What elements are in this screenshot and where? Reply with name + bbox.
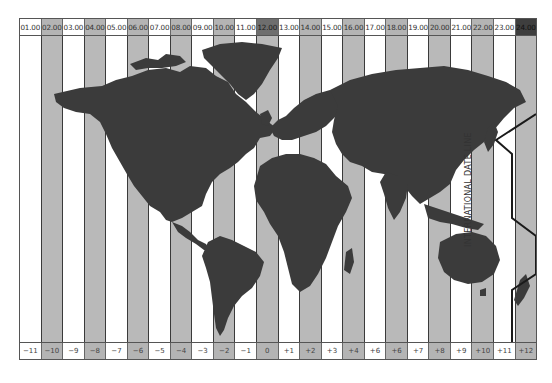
hour-header-cell: 01.00 <box>20 19 42 35</box>
utc-offset-cell: −11 <box>20 343 42 359</box>
hour-header-cell: 20.00 <box>429 19 451 35</box>
time-zone-band <box>235 19 257 359</box>
time-zone-band <box>149 19 171 359</box>
utc-offset-cell: −10 <box>42 343 64 359</box>
utc-offset-cell: +3 <box>322 343 344 359</box>
time-zone-band <box>192 19 214 359</box>
date-line-label: INTERNATIONAL DATE LINE <box>464 130 473 250</box>
time-zone-band <box>171 19 193 359</box>
utc-offset-cell: +1 <box>279 343 301 359</box>
utc-offset-cell: +2 <box>300 343 322 359</box>
utc-offset-cell: −1 <box>235 343 257 359</box>
time-zone-band <box>257 19 279 359</box>
utc-offset-cell: +7 <box>408 343 430 359</box>
utc-offset-cell: +6 <box>365 343 387 359</box>
hour-header-cell: 07.00 <box>149 19 171 35</box>
time-zone-band <box>20 19 42 359</box>
hour-header-cell: 14.00 <box>300 19 322 35</box>
time-zone-band <box>322 19 344 359</box>
utc-offset-cell: +4 <box>343 343 365 359</box>
time-zone-band <box>85 19 107 359</box>
hour-header-cell: 16.00 <box>343 19 365 35</box>
time-zone-band <box>429 19 451 359</box>
utc-offset-cell: −2 <box>214 343 236 359</box>
hour-header-cell: 23.00 <box>494 19 516 35</box>
utc-offset-cell: 0 <box>257 343 279 359</box>
hour-header-cell: 08.00 <box>171 19 193 35</box>
hour-header-cell: 13.00 <box>279 19 301 35</box>
hour-header-cell: 10.00 <box>214 19 236 35</box>
utc-offset-cell: +12 <box>516 343 537 359</box>
hour-header-row: 01.0002.0003.0004.0005.0006.0007.0008.00… <box>20 19 536 36</box>
hour-header-cell: 09.00 <box>192 19 214 35</box>
hour-header-cell: 24.00 <box>516 19 537 35</box>
utc-offset-cell: −9 <box>63 343 85 359</box>
hour-header-cell: 11.00 <box>235 19 257 35</box>
utc-offset-cell: +11 <box>494 343 516 359</box>
time-zone-band <box>494 19 516 359</box>
utc-offset-cell: −3 <box>192 343 214 359</box>
hour-header-cell: 19.00 <box>408 19 430 35</box>
time-zone-band <box>42 19 64 359</box>
hour-header-cell: 22.00 <box>472 19 494 35</box>
hour-header-cell: 21.00 <box>451 19 473 35</box>
time-zone-band <box>386 19 408 359</box>
hour-header-cell: 02.00 <box>42 19 64 35</box>
utc-offset-cell: +9 <box>451 343 473 359</box>
hour-header-cell: 06.00 <box>128 19 150 35</box>
utc-offset-cell: +6 <box>386 343 408 359</box>
hour-header-cell: 17.00 <box>365 19 387 35</box>
time-zone-bands <box>20 19 536 359</box>
time-zone-map-frame: 01.0002.0003.0004.0005.0006.0007.0008.00… <box>19 18 537 360</box>
utc-offset-cell: +10 <box>472 343 494 359</box>
time-zone-band <box>408 19 430 359</box>
hour-header-cell: 15.00 <box>322 19 344 35</box>
time-zone-band <box>279 19 301 359</box>
time-zone-band <box>128 19 150 359</box>
time-zone-band <box>516 19 537 359</box>
hour-header-cell: 18.00 <box>386 19 408 35</box>
hour-header-cell: 05.00 <box>106 19 128 35</box>
utc-offset-cell: +8 <box>429 343 451 359</box>
utc-offset-cell: −6 <box>128 343 150 359</box>
time-zone-band <box>214 19 236 359</box>
utc-offset-cell: −4 <box>171 343 193 359</box>
time-zone-band <box>300 19 322 359</box>
hour-header-cell: 04.00 <box>85 19 107 35</box>
hour-header-cell: 03.00 <box>63 19 85 35</box>
time-zone-band <box>472 19 494 359</box>
utc-offset-cell: −7 <box>106 343 128 359</box>
time-zone-band <box>365 19 387 359</box>
time-zone-band <box>106 19 128 359</box>
time-zone-band <box>63 19 85 359</box>
utc-offset-cell: −8 <box>85 343 107 359</box>
time-zone-band <box>343 19 365 359</box>
hour-header-cell: 12.00 <box>257 19 279 35</box>
utc-offset-footer-row: −11−10−9−8−7−6−5−4−3−2−10+1+2+3+4+6+6+7+… <box>20 342 536 359</box>
utc-offset-cell: −5 <box>149 343 171 359</box>
